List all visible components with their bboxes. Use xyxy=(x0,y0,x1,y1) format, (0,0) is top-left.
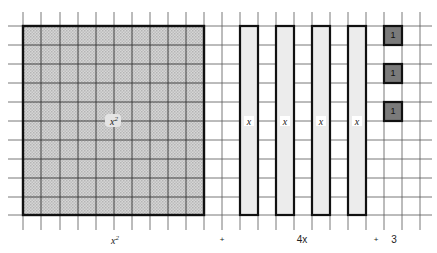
caption-3: 3 xyxy=(391,234,397,245)
x-tile-4-label: x xyxy=(355,116,359,127)
caption-x-squared: x2 xyxy=(111,234,119,246)
caption-plus-1: + xyxy=(220,235,225,244)
x-tile-2-label: x xyxy=(283,116,287,127)
caption-plus-2: + xyxy=(374,235,379,244)
x-tile-3-label: x xyxy=(319,116,323,127)
x-squared-tile-label: x2 xyxy=(110,115,118,127)
unit-tile-3-label: 1 xyxy=(390,106,395,116)
caption-4x: 4x xyxy=(297,234,308,245)
x-tile-1-label: x xyxy=(247,116,251,127)
unit-tile-2-label: 1 xyxy=(390,68,395,78)
unit-tile-1-label: 1 xyxy=(390,30,395,40)
algebra-tiles-diagram xyxy=(0,0,437,253)
